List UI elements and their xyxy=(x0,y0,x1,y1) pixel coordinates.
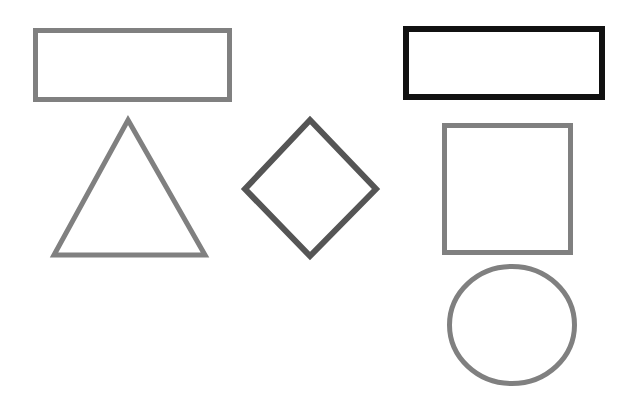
canvas-background xyxy=(0,0,632,420)
shapes-canvas xyxy=(0,0,632,420)
shapes-svg xyxy=(0,0,632,420)
